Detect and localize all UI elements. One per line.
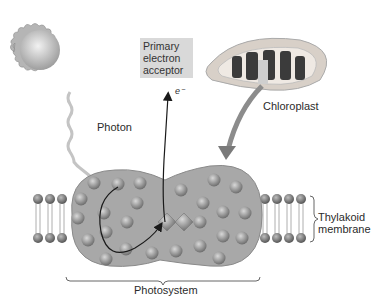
chloroplast-label: Chloroplast xyxy=(263,100,319,112)
photon-wave xyxy=(68,92,90,176)
thylakoid-membrane-left xyxy=(33,194,67,243)
acceptor-label-line-3: acceptor xyxy=(143,64,190,76)
thylakoid-bracket xyxy=(310,196,318,242)
primary-electron-acceptor: Primary electron acceptor xyxy=(140,38,193,78)
chloroplast-illustration xyxy=(206,38,327,90)
electron-label: e⁻ xyxy=(175,86,185,96)
zoom-arrow xyxy=(228,86,262,150)
sun-icon xyxy=(10,24,60,71)
acceptor-label-line-2: electron xyxy=(143,52,190,64)
photosystem-label: Photosystem xyxy=(134,284,198,296)
photon-label: Photon xyxy=(97,121,132,133)
thylakoid-label-line-2: membrane xyxy=(318,223,371,235)
acceptor-label-line-1: Primary xyxy=(143,40,190,52)
thylakoid-membrane-right xyxy=(260,194,306,243)
thylakoid-membrane-label: Thylakoid membrane xyxy=(318,211,371,235)
thylakoid-label-line-1: Thylakoid xyxy=(318,211,371,223)
